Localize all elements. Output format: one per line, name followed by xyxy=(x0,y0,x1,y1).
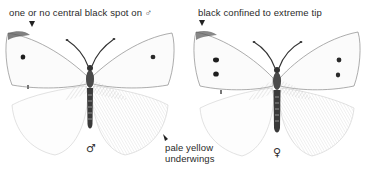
male-right-hindwing xyxy=(92,86,168,155)
male-forewing-spot-left xyxy=(21,54,26,59)
female-abdomen xyxy=(274,90,281,133)
male-right-forewing xyxy=(93,33,174,88)
tip-pointer-arrow-icon xyxy=(199,20,205,26)
tip-pointer-arrow-icon xyxy=(29,21,35,27)
female-thorax xyxy=(273,72,281,90)
female-tip-annotation: black confined to extreme tip xyxy=(198,7,322,19)
female-forewing-spot-upper-left xyxy=(213,58,219,63)
female-right-hindwing xyxy=(279,88,354,156)
female-symbol: ♀ xyxy=(273,146,281,159)
butterfly-comparison-figure: one or no central black spot on ♂ black … xyxy=(0,0,368,172)
male-symbol: ♂ xyxy=(86,142,96,155)
underwing-annotation-line2: underwings xyxy=(165,153,215,165)
male-butterfly xyxy=(6,21,174,155)
male-abdomen xyxy=(87,88,93,129)
underwing-pointer-arrow-icon xyxy=(163,134,168,141)
female-forewing-spot-lower-left xyxy=(213,71,219,76)
male-left-forewing xyxy=(6,33,87,88)
male-spot-annotation: one or no central black spot on ♂ xyxy=(9,7,152,19)
female-right-forewing xyxy=(280,32,360,90)
female-left-forewing xyxy=(194,32,273,90)
female-forewing-spot-upper-right xyxy=(337,58,342,63)
female-butterfly xyxy=(194,20,360,156)
male-thorax xyxy=(86,70,94,88)
male-forewing-spot-right xyxy=(151,55,156,59)
female-forewing-spot-lower-right xyxy=(336,73,340,78)
